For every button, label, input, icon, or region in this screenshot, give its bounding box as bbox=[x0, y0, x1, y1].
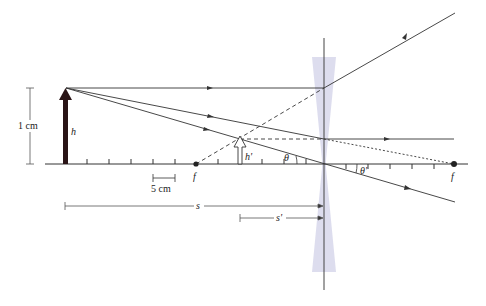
angle-theta-prime-label: θ' bbox=[360, 165, 368, 176]
focal-point-left bbox=[193, 161, 198, 166]
angle-theta-arc bbox=[296, 156, 297, 164]
object-arrow-head bbox=[59, 88, 72, 100]
focal-left-label: f bbox=[193, 171, 197, 182]
object-height-label: h bbox=[71, 126, 76, 137]
ray-diagram: 1 cm h h' θ θ' f f bbox=[0, 0, 486, 306]
object-arrow-shaft bbox=[63, 98, 68, 164]
object-distance-label: s bbox=[196, 200, 200, 211]
focal-point-right bbox=[451, 161, 457, 167]
image-height-label: h' bbox=[245, 151, 253, 162]
scale-5cm-bracket bbox=[153, 174, 175, 182]
focal-right-label: f bbox=[451, 171, 455, 182]
angle-theta-label: θ bbox=[284, 152, 289, 163]
scale-5cm-label: 5 cm bbox=[151, 183, 171, 194]
angle-theta-prime-arc bbox=[356, 164, 357, 173]
rays bbox=[66, 13, 455, 202]
image-distance-label: s' bbox=[276, 212, 283, 223]
scale-bar-label: 1 cm bbox=[18, 120, 38, 131]
